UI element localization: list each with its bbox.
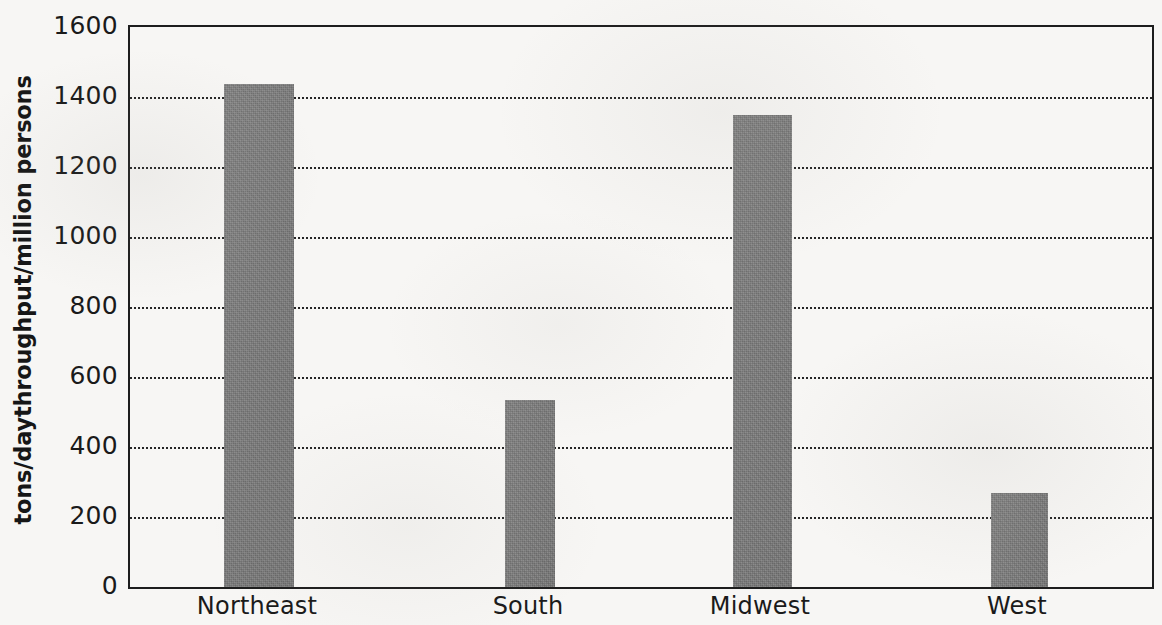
bar-midwest [733,115,792,587]
y-tick-label-600: 600 [0,361,118,390]
y-tick-label-1200: 1200 [0,151,118,180]
y-axis-tick-labels: 02004006008001000120014001600 [0,0,118,625]
bar-west [991,493,1048,587]
x-axis-tick-labels: NortheastSouthMidwestWest [128,592,1150,625]
y-tick-label-1600: 1600 [0,11,118,40]
y-tick-label-1400: 1400 [0,81,118,110]
y-tick-label-800: 800 [0,291,118,320]
plot-area [128,25,1154,589]
y-tick-label-400: 400 [0,431,118,460]
x-tick-label-south: South [493,592,564,620]
y-tick-label-0: 0 [0,571,118,600]
x-tick-label-midwest: Midwest [710,592,810,620]
bar-northeast [224,84,294,587]
y-tick-label-1000: 1000 [0,221,118,250]
bar-chart-figure: tons/daythroughput/million persons 02004… [0,0,1162,625]
x-tick-label-northeast: Northeast [197,592,317,620]
x-tick-label-west: West [987,592,1047,620]
bar-south [505,400,555,587]
y-tick-label-200: 200 [0,501,118,530]
